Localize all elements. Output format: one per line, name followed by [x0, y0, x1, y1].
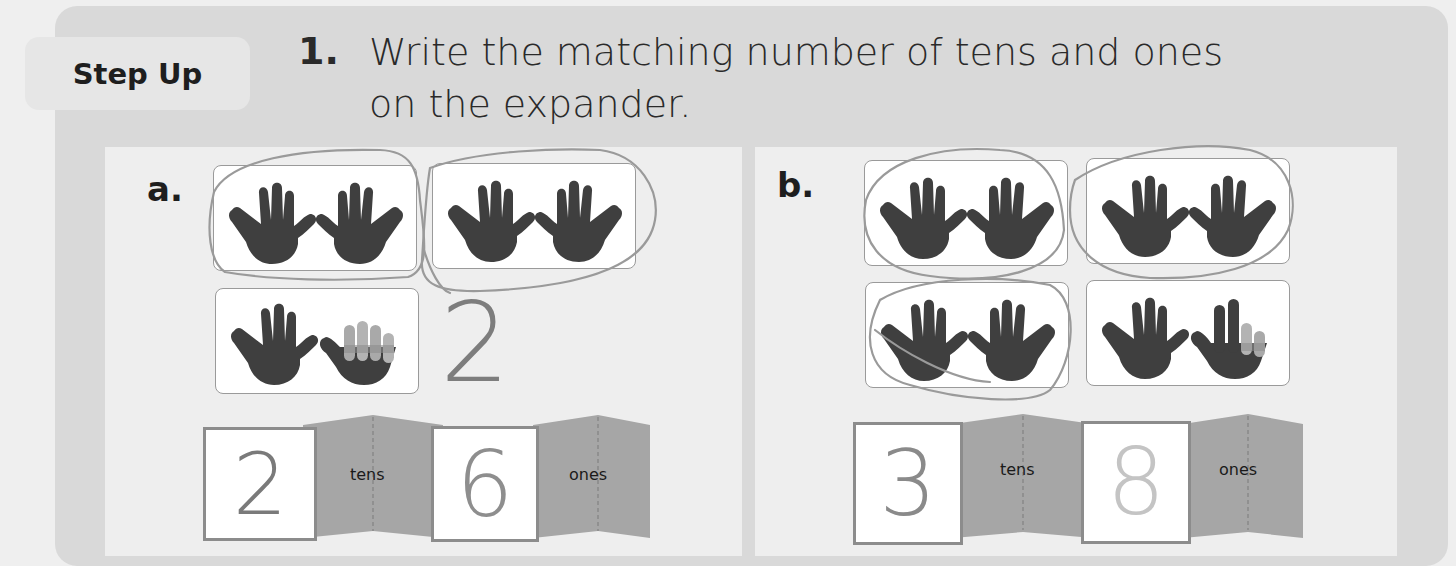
hand-card — [1086, 280, 1290, 386]
left-hand-icon — [1102, 176, 1189, 257]
handwritten-note: 2 — [440, 288, 510, 398]
ones-label: ones — [1219, 460, 1257, 479]
ones-value: 8 — [1084, 424, 1188, 541]
right-hand-grayed-fingers-icon — [1191, 299, 1267, 379]
expander-b: 3 tens 8 ones — [853, 410, 1305, 545]
hand-card — [213, 165, 417, 271]
hand-card — [1086, 158, 1290, 264]
tens-label: tens — [1000, 460, 1035, 479]
problem-b-label: b. — [777, 165, 814, 205]
left-hand-icon — [881, 300, 968, 381]
hand-card — [432, 163, 636, 269]
left-hand-icon — [229, 183, 316, 264]
tens-value: 2 — [206, 430, 314, 538]
ones-value: 6 — [434, 429, 536, 539]
hand-card — [215, 288, 419, 394]
ones-label: ones — [569, 465, 607, 484]
right-hand-icon — [1189, 176, 1276, 257]
tens-label: tens — [350, 465, 385, 484]
tens-value: 3 — [856, 425, 960, 542]
right-hand-grayed-fingers-icon — [320, 321, 396, 385]
instruction-line-1: Write the matching number of tens and on… — [369, 26, 1319, 78]
tens-input-box[interactable]: 2 — [203, 427, 317, 541]
ones-input-box[interactable]: 8 — [1081, 421, 1191, 544]
left-hand-icon — [448, 181, 535, 262]
right-hand-icon — [535, 181, 622, 262]
question-number: 1. — [298, 29, 339, 73]
right-hand-icon — [968, 300, 1055, 381]
left-hand-icon — [880, 178, 967, 259]
left-hand-icon — [1102, 298, 1189, 379]
right-hand-icon — [316, 183, 403, 264]
hand-card — [864, 160, 1068, 266]
hand-card — [865, 282, 1069, 388]
right-hand-icon — [967, 178, 1054, 259]
instruction-text: Write the matching number of tens and on… — [369, 26, 1319, 130]
step-up-tab: Step Up — [25, 37, 250, 110]
ones-input-box[interactable]: 6 — [431, 426, 539, 542]
problem-a-label: a. — [147, 169, 183, 209]
expander-a: 2 tens 6 ones — [203, 413, 653, 543]
left-hand-icon — [231, 304, 318, 385]
instruction-line-2: on the expander. — [369, 78, 1319, 130]
tens-input-box[interactable]: 3 — [853, 422, 963, 545]
